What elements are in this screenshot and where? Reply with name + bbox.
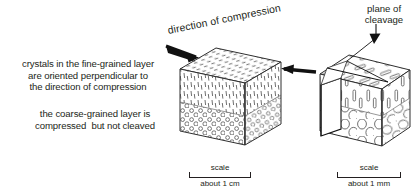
scale-bar-right: scale about 1 mm [337,163,401,189]
caption-fine-grained-layer: crystals in the fine-grained layer are o… [4,58,172,93]
figure-canvas: crystals in the fine-grained layer are o… [0,0,417,194]
scale-right-rule [337,172,401,178]
scale-right-title: scale [337,163,401,172]
block-cleavage-magnified [320,55,410,146]
scale-left-rule [189,172,251,178]
scale-left-title: scale [189,163,251,172]
block-compressed-layers [180,48,281,145]
scale-right-note: about 1 mm [337,178,401,189]
scale-left-note: about 1 cm [189,178,251,189]
label-plane-of-cleavage: plane of cleavage [355,3,413,26]
scale-bar-left: scale about 1 cm [189,163,251,189]
caption-coarse-grained-layer: the coarse-grained layer is compressed b… [18,108,172,131]
compression-arrow-right [281,64,316,74]
